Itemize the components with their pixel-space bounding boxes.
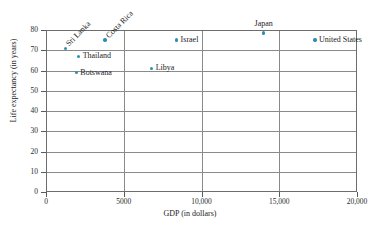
x-axis-tick-label: 5000 bbox=[94, 197, 154, 206]
scatter-chart: 01020304050607080 0500010,00015,00020,00… bbox=[0, 0, 380, 230]
y-axis-tick bbox=[41, 71, 46, 72]
data-point-label: Japan bbox=[255, 19, 273, 28]
data-point-label: United States bbox=[319, 35, 362, 44]
gridline-vertical bbox=[202, 31, 203, 191]
y-axis-tick-label: 50 bbox=[14, 87, 38, 95]
y-axis-tick-label: 80 bbox=[14, 26, 38, 34]
data-point[interactable] bbox=[313, 38, 316, 41]
y-axis-tick-label: 30 bbox=[14, 127, 38, 135]
x-axis-tick-label: 15,000 bbox=[249, 197, 309, 206]
y-axis-tick bbox=[41, 30, 46, 31]
y-axis-tick bbox=[41, 91, 46, 92]
data-point-label: Libya bbox=[156, 63, 175, 72]
y-axis-tick bbox=[41, 131, 46, 132]
data-point-label: Israel bbox=[181, 35, 199, 44]
y-axis-tick-label: 10 bbox=[14, 168, 38, 176]
data-point[interactable] bbox=[103, 38, 106, 41]
y-axis-tick bbox=[41, 50, 46, 51]
y-axis-tick bbox=[41, 172, 46, 173]
y-axis-tick-label: 70 bbox=[14, 46, 38, 54]
x-axis-tick-label: 20,000 bbox=[327, 197, 380, 206]
x-axis-title: GDP (in dollars) bbox=[0, 209, 380, 218]
y-axis-tick-label: 60 bbox=[14, 67, 38, 75]
gridline-vertical bbox=[124, 31, 125, 191]
gridline-vertical bbox=[279, 31, 280, 191]
x-axis-tick-label: 0 bbox=[16, 197, 76, 206]
y-axis-tick bbox=[41, 111, 46, 112]
y-axis-tick-label: 20 bbox=[14, 148, 38, 156]
y-axis-tick bbox=[41, 152, 46, 153]
y-axis-title: Life expectancy (in years) bbox=[9, 16, 18, 146]
y-axis-tick-label: 0 bbox=[14, 188, 38, 196]
data-point-label: Thailand bbox=[83, 51, 111, 60]
x-axis-tick-label: 10,000 bbox=[172, 197, 232, 206]
y-axis-tick-label: 40 bbox=[14, 107, 38, 115]
data-point[interactable] bbox=[64, 47, 67, 50]
data-point-label: Botswana bbox=[80, 68, 112, 77]
